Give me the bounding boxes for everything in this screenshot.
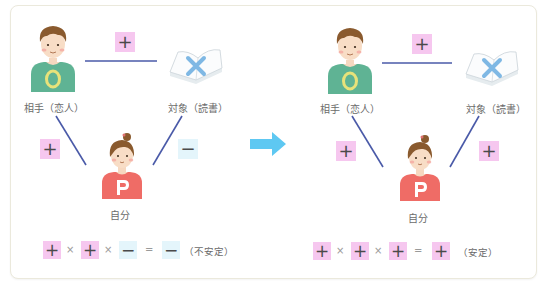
sign-text: −	[164, 242, 178, 259]
right-arrow-icon	[248, 131, 288, 157]
book-object-icon	[462, 48, 522, 88]
sign-text: +	[434, 243, 448, 260]
eq-result-note: （安定）	[458, 245, 498, 259]
eq-op-equals: =	[414, 245, 422, 256]
sign-text: +	[353, 243, 367, 260]
partner-label: 相手（恋人）	[24, 100, 84, 115]
sign-text: +	[391, 243, 405, 260]
self-label: 自分	[408, 210, 428, 225]
sign-text: +	[45, 242, 59, 259]
eq-term-3: −	[119, 241, 137, 259]
eq-op-1: ×	[66, 244, 74, 255]
sign-text: +	[42, 140, 57, 158]
object-label: 対象（読書）	[168, 100, 228, 115]
edge-sign-self-partner: +	[336, 141, 356, 161]
edge-sign-partner-object: +	[412, 34, 432, 54]
eq-term-2: +	[81, 241, 99, 259]
eq-op-2: ×	[104, 244, 112, 255]
eq-op-2: ×	[374, 245, 382, 256]
book-object-icon	[166, 46, 226, 86]
sign-text: −	[180, 140, 195, 158]
eq-term-2: +	[351, 242, 369, 260]
edge-sign-self-object: +	[479, 141, 499, 161]
self-girl-icon	[398, 133, 442, 203]
eq-result-note: （不安定）	[184, 244, 234, 258]
eq-result: +	[432, 242, 450, 260]
partner-boy-icon	[28, 22, 78, 94]
right-panel: 相手（恋人） 対象（読書） 自分 + + + + × + × + = + （安定…	[298, 0, 540, 285]
sign-text: +	[338, 142, 353, 160]
self-girl-icon	[100, 131, 144, 201]
sign-text: +	[117, 33, 132, 51]
sign-text: +	[414, 35, 429, 53]
partner-label: 相手（恋人）	[320, 101, 380, 116]
eq-op-1: ×	[336, 245, 344, 256]
eq-term-1: +	[313, 242, 331, 260]
eq-op-equals: =	[145, 244, 153, 255]
edge-sign-self-partner: +	[40, 139, 60, 159]
line-self-object	[450, 116, 479, 167]
self-label: 自分	[110, 207, 130, 222]
sign-text: +	[315, 243, 329, 260]
sign-text: −	[121, 242, 135, 259]
sign-text: +	[481, 142, 496, 160]
object-label: 対象（読書）	[466, 101, 526, 116]
line-self-partner	[56, 116, 86, 165]
partner-boy-icon	[325, 24, 375, 96]
eq-term-1: +	[43, 241, 61, 259]
line-self-partner	[352, 116, 383, 167]
edge-sign-partner-object: +	[115, 32, 135, 52]
eq-result: −	[162, 241, 180, 259]
sign-text: +	[83, 242, 97, 259]
eq-term-3: +	[389, 242, 407, 260]
left-panel: 相手（恋人） 対象（読書） 自分 + + − + × + × − = −	[0, 0, 270, 285]
edge-sign-self-object: −	[178, 139, 198, 159]
